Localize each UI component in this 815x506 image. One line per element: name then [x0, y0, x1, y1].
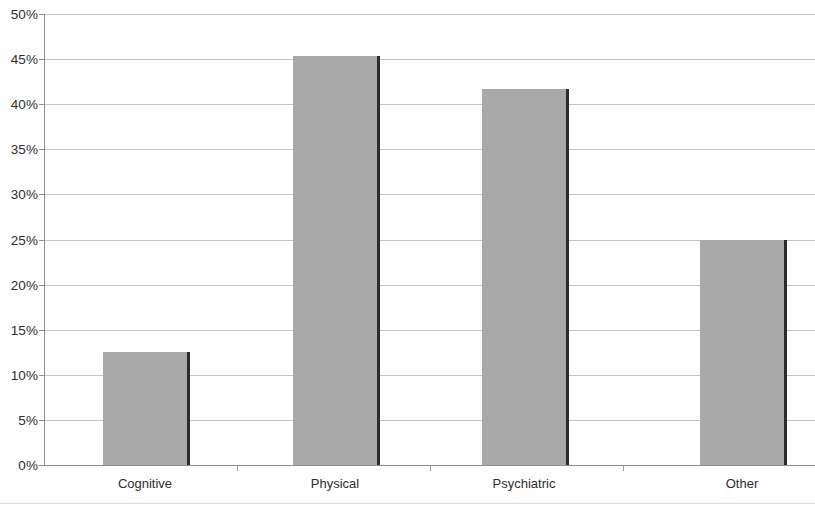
scan-artifact-line	[0, 503, 815, 504]
y-axis-label-25: 25%	[0, 232, 38, 247]
y-axis-label-50: 50%	[0, 7, 38, 22]
x-tick-2	[430, 466, 431, 471]
x-axis-label-physical: Physical	[311, 476, 359, 491]
x-tick-1	[237, 466, 238, 471]
y-axis-label-5: 5%	[0, 412, 38, 427]
x-axis-label-other: Other	[726, 476, 759, 491]
x-tick-3	[623, 466, 624, 471]
y-axis-label-0: 0%	[0, 458, 38, 473]
y-axis-label-35: 35%	[0, 142, 38, 157]
x-axis-label-psychiatric: Psychiatric	[493, 476, 556, 491]
y-axis-label-15: 15%	[0, 322, 38, 337]
y-axis-label-10: 10%	[0, 367, 38, 382]
y-axis-label-20: 20%	[0, 277, 38, 292]
y-axis-label-30: 30%	[0, 187, 38, 202]
y-axis-labels: 50% 45% 40% 35% 30% 25% 20% 15% 10% 5% 0…	[0, 0, 815, 506]
bar-chart: 50% 45% 40% 35% 30% 25% 20% 15% 10% 5% 0…	[0, 0, 815, 506]
y-axis-label-45: 45%	[0, 52, 38, 67]
x-axis-label-cognitive: Cognitive	[118, 476, 172, 491]
y-axis-label-40: 40%	[0, 97, 38, 112]
